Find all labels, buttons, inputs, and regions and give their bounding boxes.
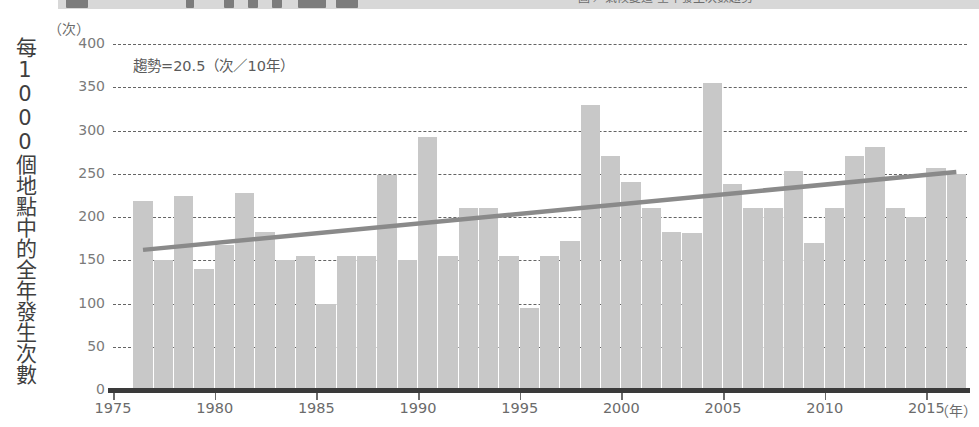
x-tick-label-2000: 2000 <box>591 400 651 416</box>
x-tick-2010 <box>825 393 827 400</box>
x-tick-1980 <box>215 393 217 400</box>
y-tick-label-400: 400 <box>61 35 105 51</box>
x-tick-label-1995: 1995 <box>490 400 550 416</box>
trend-line <box>113 44 967 390</box>
cropped-title-bar: 圖 ／氣候變遷 全年發生次數趨勢 <box>58 0 979 9</box>
x-tick-label-2005: 2005 <box>693 400 753 416</box>
x-tick-label-1980: 1980 <box>185 400 245 416</box>
x-axis-line <box>108 388 970 393</box>
y-tick-label-200: 200 <box>61 208 105 224</box>
x-tick-label-1975: 1975 <box>83 400 143 416</box>
x-tick-label-2010: 2010 <box>795 400 855 416</box>
x-tick-2015 <box>926 393 928 400</box>
y-tick-label-250: 250 <box>61 165 105 181</box>
chart-root: 圖 ／氣候變遷 全年發生次數趨勢 每1000個地點中的全年發生次數 （次） （年… <box>0 0 979 427</box>
title-fragment: 圖 ／氣候變遷 全年發生次數趨勢 <box>578 0 753 5</box>
x-tick-2005 <box>723 393 725 400</box>
y-tick-label-150: 150 <box>61 251 105 267</box>
x-tick-1985 <box>316 393 318 400</box>
x-tick-1990 <box>418 393 420 400</box>
y-tick-label-50: 50 <box>61 338 105 354</box>
x-tick-1975 <box>113 393 115 400</box>
y-tick-label-0: 0 <box>61 381 105 397</box>
plot-area <box>113 44 967 390</box>
x-tick-label-2015: 2015 <box>896 400 956 416</box>
x-tick-label-1985: 1985 <box>286 400 346 416</box>
y-axis-title: 每1000個地點中的全年發生次數 <box>2 22 36 400</box>
y-tick-label-350: 350 <box>61 78 105 94</box>
x-tick-2000 <box>621 393 623 400</box>
x-tick-1995 <box>520 393 522 400</box>
y-tick-label-300: 300 <box>61 122 105 138</box>
x-tick-label-1990: 1990 <box>388 400 448 416</box>
y-tick-label-100: 100 <box>61 295 105 311</box>
